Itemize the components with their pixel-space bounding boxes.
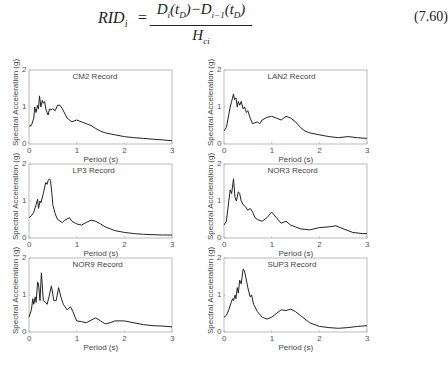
y-tick-label: 0 — [217, 327, 221, 336]
plot-frame — [224, 258, 367, 332]
x-tick-label: 2 — [317, 334, 321, 343]
plot-canvas — [0, 0, 448, 368]
y-axis-label: Spectral Acceleration (g) — [206, 247, 215, 334]
plot-title: SUP3 Record — [268, 260, 317, 269]
y-tick-label: 1 — [217, 290, 221, 299]
spectrum-line — [224, 269, 367, 328]
y-tick-label: 2 — [217, 253, 221, 262]
x-tick-label: 0 — [222, 334, 226, 343]
x-tick-label: 3 — [365, 334, 369, 343]
x-axis-label: Period (s) — [279, 343, 314, 352]
x-tick-label: 1 — [270, 334, 274, 343]
